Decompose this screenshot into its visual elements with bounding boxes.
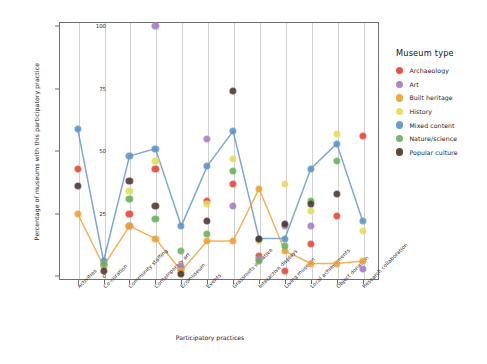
y-axis-tick: [55, 276, 59, 277]
legend-label: Archaeology: [409, 67, 449, 74]
legend-item[interactable]: Popular culture: [396, 148, 487, 155]
legend-swatch-icon: [396, 94, 403, 101]
gridline: [364, 23, 365, 279]
gridline: [130, 23, 131, 279]
plot-area: [59, 22, 379, 280]
y-axis-title: Percentage of museums with this particip…: [33, 32, 40, 272]
y-axis-tick: [55, 88, 59, 89]
legend-item[interactable]: Archaeology: [396, 67, 487, 74]
y-axis-tick: [55, 26, 59, 27]
gridline: [338, 23, 339, 279]
legend-label: Nature/science: [409, 135, 457, 142]
legend-swatch-icon: [396, 121, 403, 128]
legend-swatch-icon: [396, 67, 403, 74]
legend-item[interactable]: History: [396, 108, 487, 115]
legend-label: Popular culture: [409, 149, 457, 156]
legend-swatch-icon: [396, 135, 403, 142]
legend-item[interactable]: Art: [396, 81, 487, 88]
chart-root: Percentage of museums with this particip…: [0, 0, 487, 364]
gridline: [182, 23, 183, 279]
y-axis-tick: [55, 213, 59, 214]
legend-label: History: [409, 108, 432, 115]
y-axis-tick-label: 100: [76, 23, 106, 29]
y-axis-tick-label: 75: [76, 86, 106, 92]
legend-label: Mixed content: [409, 122, 454, 129]
legend-label: Art: [409, 81, 419, 88]
legend-swatch-icon: [396, 148, 403, 155]
y-axis-tick: [55, 151, 59, 152]
legend-item[interactable]: Built heritage: [396, 94, 487, 101]
legend-swatch-icon: [396, 81, 403, 88]
legend-swatch-icon: [396, 108, 403, 115]
legend-item[interactable]: Nature/science: [396, 135, 487, 142]
legend-label: Built heritage: [409, 94, 452, 101]
legend-title: Museum type: [396, 48, 487, 58]
legend: Museum type ArchaeologyArtBuilt heritage…: [396, 48, 487, 162]
x-axis-title: Participatory practices: [0, 334, 420, 341]
y-axis-tick-label: 50: [76, 148, 106, 154]
legend-item[interactable]: Mixed content: [396, 121, 487, 128]
